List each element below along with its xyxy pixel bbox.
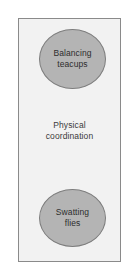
node-swatting-flies[interactable]: Swatting flies [39,189,106,247]
center-label-line-2: coordination [19,131,120,142]
node-balancing-teacups-line-2: teacups [57,59,87,70]
node-swatting-flies-line-1: Swatting [56,207,89,218]
node-balancing-teacups-line-1: Balancing [53,48,91,59]
center-label-physical-coordination: Physical coordination [19,120,120,142]
node-swatting-flies-line-2: flies [65,218,81,229]
diagram-frame: Balancing teacups Physical coordination … [18,18,121,262]
center-label-line-1: Physical [19,120,120,131]
node-balancing-teacups[interactable]: Balancing teacups [39,29,106,89]
